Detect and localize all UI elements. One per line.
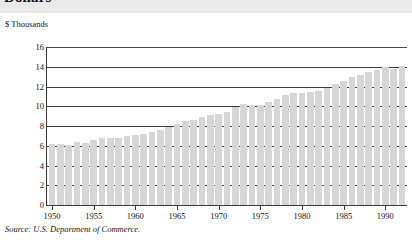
bar: [90, 140, 96, 205]
y-tick-label-16: 16: [4, 42, 44, 52]
bar: [290, 93, 296, 205]
bar: [182, 121, 188, 205]
bar: [124, 136, 130, 205]
x-tick-label-1980: 1980: [294, 211, 311, 221]
y-tick-label-10: 10: [4, 101, 44, 111]
y-tick-label-4: 4: [4, 161, 44, 171]
y-tick-label-8: 8: [4, 121, 44, 131]
bar: [374, 70, 380, 205]
x-tick-label-1985: 1985: [335, 211, 352, 221]
bar: [74, 142, 80, 205]
bar: [224, 112, 230, 205]
y-axis-unit-label: $ Thousands: [5, 19, 48, 29]
bar: [357, 75, 363, 205]
x-tick-1985: [344, 205, 345, 210]
bar: [257, 105, 263, 205]
bar: [365, 72, 371, 205]
bar: [332, 84, 338, 205]
plot-area: [47, 47, 407, 205]
bar: [174, 124, 180, 205]
x-tick-label-1960: 1960: [127, 211, 144, 221]
bar: [99, 138, 105, 205]
x-tick-1970: [219, 205, 220, 210]
bar: [307, 92, 313, 205]
bar: [340, 81, 346, 205]
y-tick-label-2: 2: [4, 180, 44, 190]
bar: [57, 144, 63, 205]
bar: [390, 69, 396, 205]
source-note: Source: U.S. Department of Commerce.: [5, 224, 140, 234]
y-tick-label-0: 0: [4, 200, 44, 210]
bar: [149, 132, 155, 205]
bar: [132, 135, 138, 205]
bar: [265, 102, 271, 205]
bar: [199, 117, 205, 205]
x-tick-label-1955: 1955: [85, 211, 102, 221]
bar: [65, 145, 71, 205]
chart-title-band: Dollars: [0, 0, 412, 13]
y-tick-label-12: 12: [4, 82, 44, 92]
bar: [282, 95, 288, 205]
bar: [82, 143, 88, 205]
x-tick-1975: [260, 205, 261, 210]
x-tick-label-1975: 1975: [252, 211, 269, 221]
x-tick-1955: [94, 205, 95, 210]
chart-title: Dollars: [4, 0, 51, 6]
bar: [49, 144, 55, 205]
bar: [140, 134, 146, 205]
bar-series: [47, 47, 407, 205]
bar: [240, 104, 246, 205]
bar: [315, 91, 321, 205]
x-tick-1960: [135, 205, 136, 210]
y-tick-label-6: 6: [4, 141, 44, 151]
y-tick-label-14: 14: [4, 62, 44, 72]
bar: [190, 120, 196, 205]
bar: [157, 130, 163, 205]
bar: [349, 77, 355, 205]
y-axis-labels: 0246810121416: [0, 47, 44, 205]
x-tick-label-1965: 1965: [169, 211, 186, 221]
bar: [324, 88, 330, 205]
x-tick-label-1970: 1970: [210, 211, 227, 221]
bar: [232, 107, 238, 205]
bar: [165, 127, 171, 205]
x-tick-1950: [52, 205, 53, 210]
bar: [115, 138, 121, 205]
x-tick-1980: [302, 205, 303, 210]
bar: [107, 138, 113, 205]
x-tick-label-1950: 1950: [44, 211, 61, 221]
x-tick-1990: [385, 205, 386, 210]
bar: [399, 66, 405, 205]
bar: [274, 99, 280, 205]
x-tick-1965: [177, 205, 178, 210]
bar: [249, 105, 255, 205]
bar: [382, 67, 388, 205]
bar: [299, 93, 305, 205]
bar: [207, 115, 213, 205]
bar: [215, 114, 221, 205]
x-tick-label-1990: 1990: [377, 211, 394, 221]
